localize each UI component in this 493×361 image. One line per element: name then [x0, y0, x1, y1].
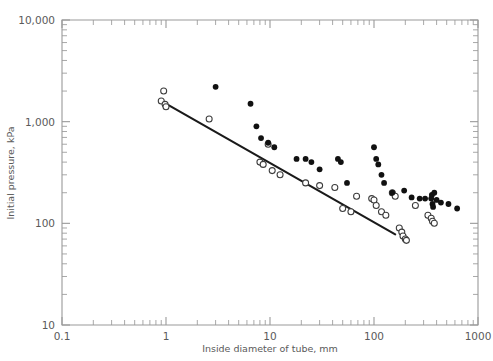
data-point-filled	[265, 140, 271, 146]
x-tick-label: 1	[163, 330, 170, 342]
y-tick-label: 10,000	[18, 14, 55, 26]
data-point-filled	[430, 204, 436, 210]
x-axis-title: Inside diameter of tube, mm	[202, 343, 338, 354]
data-point-open	[403, 237, 409, 243]
data-point-open	[383, 212, 389, 218]
data-point-filled	[379, 172, 385, 178]
x-tick-label: 100	[364, 330, 384, 342]
y-tick-label: 10	[42, 319, 55, 331]
data-point-filled	[454, 206, 460, 212]
chart-figure: 0.11101001000101001,00010,000 Inside dia…	[0, 0, 493, 361]
x-tick-label: 0.1	[54, 330, 71, 342]
data-point-filled	[389, 190, 395, 196]
data-point-open	[277, 172, 283, 178]
y-tick-label: 1,000	[25, 116, 55, 128]
data-point-open	[163, 104, 169, 110]
data-point-filled	[271, 144, 277, 150]
data-point-open	[348, 209, 354, 215]
data-point-open	[332, 185, 338, 191]
data-point-open	[303, 180, 309, 186]
data-point-filled	[308, 159, 314, 165]
trend-line	[164, 102, 396, 234]
data-point-filled	[431, 190, 437, 196]
data-point-filled	[401, 188, 407, 194]
data-point-filled	[303, 156, 309, 162]
open-circle-data-points	[158, 88, 437, 243]
data-point-open	[206, 116, 212, 122]
data-point-filled	[438, 200, 444, 206]
data-point-open	[317, 183, 323, 189]
axis-tick-labels: 0.11101001000101001,00010,000	[18, 14, 491, 342]
filled-circle-data-points	[213, 84, 460, 211]
data-point-open	[412, 202, 418, 208]
data-point-filled	[446, 201, 452, 207]
data-point-filled	[417, 196, 423, 202]
data-point-filled	[294, 156, 300, 162]
data-point-open	[354, 193, 360, 199]
y-axis-title: Initial pressure, kPa	[5, 126, 16, 219]
data-point-open	[431, 220, 437, 226]
data-point-filled	[409, 194, 415, 200]
data-point-open	[260, 161, 266, 167]
data-point-open	[340, 205, 346, 211]
data-point-filled	[254, 123, 260, 129]
data-point-filled	[338, 159, 344, 165]
data-point-filled	[317, 166, 323, 172]
data-point-open	[161, 88, 167, 94]
data-point-filled	[381, 180, 387, 186]
data-point-filled	[422, 196, 428, 202]
x-tick-label: 1000	[465, 330, 492, 342]
x-tick-label: 10	[263, 330, 276, 342]
data-point-filled	[371, 144, 377, 150]
data-point-filled	[213, 84, 219, 90]
data-point-filled	[248, 101, 254, 107]
data-point-filled	[344, 180, 350, 186]
data-point-open	[269, 168, 275, 174]
data-point-filled	[258, 135, 264, 141]
data-point-open	[373, 202, 379, 208]
y-tick-label: 100	[35, 217, 55, 229]
scatter-plot-svg: 0.11101001000101001,00010,000 Inside dia…	[0, 0, 493, 361]
data-point-filled	[375, 161, 381, 167]
data-point-filled	[373, 156, 379, 162]
